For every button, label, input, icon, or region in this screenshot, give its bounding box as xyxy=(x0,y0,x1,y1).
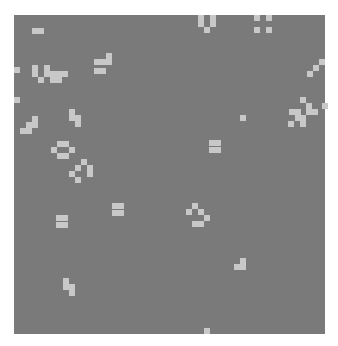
live-cell[interactable] xyxy=(118,203,124,209)
live-cell[interactable] xyxy=(322,103,328,109)
live-cell[interactable] xyxy=(198,221,204,227)
live-cell[interactable] xyxy=(118,210,124,216)
live-cell[interactable] xyxy=(14,97,20,103)
live-cell[interactable] xyxy=(38,28,44,34)
live-cell[interactable] xyxy=(312,109,318,115)
live-cell[interactable] xyxy=(319,59,325,65)
live-cell[interactable] xyxy=(100,68,106,74)
live-cell[interactable] xyxy=(32,122,38,128)
live-cell[interactable] xyxy=(186,209,192,215)
live-cell[interactable] xyxy=(69,290,75,296)
live-cell[interactable] xyxy=(14,67,20,73)
live-cell[interactable] xyxy=(204,215,210,221)
live-cell[interactable] xyxy=(210,21,216,27)
live-cell[interactable] xyxy=(215,147,221,153)
live-cell[interactable] xyxy=(300,121,306,127)
live-cell[interactable] xyxy=(38,77,44,83)
live-cell[interactable] xyxy=(62,222,68,228)
live-cell[interactable] xyxy=(254,15,260,21)
live-cell[interactable] xyxy=(62,215,68,221)
live-cell[interactable] xyxy=(69,147,75,153)
live-cell[interactable] xyxy=(87,171,93,177)
live-cell[interactable] xyxy=(62,71,68,77)
live-cell[interactable] xyxy=(215,140,221,146)
live-cell[interactable] xyxy=(106,59,112,65)
game-of-life-board[interactable] xyxy=(14,15,325,334)
live-cell[interactable] xyxy=(254,27,260,33)
live-cell[interactable] xyxy=(75,165,81,171)
live-cell[interactable] xyxy=(100,59,106,65)
live-cell[interactable] xyxy=(307,71,313,77)
live-cell[interactable] xyxy=(56,77,62,83)
live-cell[interactable] xyxy=(288,121,294,127)
live-cell[interactable] xyxy=(75,177,81,183)
live-cell[interactable] xyxy=(240,115,246,121)
live-cell[interactable] xyxy=(266,15,272,21)
live-cell[interactable] xyxy=(63,153,69,159)
live-cell[interactable] xyxy=(204,27,210,33)
live-cell[interactable] xyxy=(240,264,246,270)
live-cell[interactable] xyxy=(204,328,210,334)
live-cell[interactable] xyxy=(234,264,240,270)
live-cell[interactable] xyxy=(313,65,319,71)
live-cell[interactable] xyxy=(266,27,272,33)
live-cell[interactable] xyxy=(26,128,32,134)
live-cell[interactable] xyxy=(75,121,81,127)
